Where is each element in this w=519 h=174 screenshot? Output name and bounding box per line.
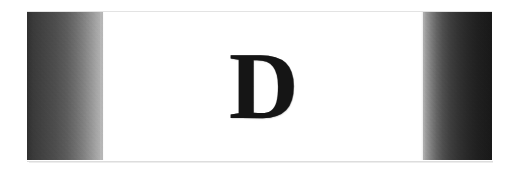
left-dark-band: [27, 11, 103, 160]
right-band-grain-texture: [423, 11, 492, 160]
right-dark-band: [423, 11, 492, 160]
right-band-seam: [421, 11, 425, 160]
plate-top-hairline: [27, 11, 492, 12]
left-band-grain-texture: [27, 11, 103, 160]
scanned-image-canvas: D: [0, 0, 519, 174]
dropcap-letter: D: [229, 36, 285, 136]
plate-bottom-shadow: [29, 162, 493, 163]
left-band-seam: [100, 11, 104, 160]
